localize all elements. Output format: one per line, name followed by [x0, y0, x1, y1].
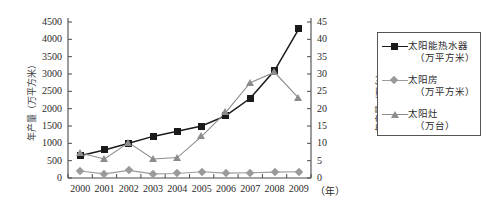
legend-series-name: 太阳能热水器 — [408, 41, 468, 51]
data-point-triangle — [124, 139, 132, 146]
data-point-square — [101, 146, 108, 153]
legend-marker-diamond-icon — [382, 75, 408, 87]
data-point-triangle — [294, 94, 302, 101]
data-point-triangle — [197, 132, 205, 139]
legend-item-1[interactable]: 太阳房（万平方米） — [382, 74, 475, 98]
chart-root: 年产量（万平方米） 年产量（万台） 4500400035003000250020… — [0, 0, 490, 215]
data-point-triangle — [100, 155, 108, 162]
data-point-triangle — [221, 108, 229, 115]
data-point-square — [174, 128, 181, 135]
legend-marker-square-icon — [382, 41, 408, 53]
data-point-square — [295, 25, 302, 32]
series-line-diamond — [80, 170, 299, 173]
legend-series-name: 太阳房 — [408, 75, 438, 85]
legend-label-0: 太阳能热水器（万平方米） — [408, 40, 475, 64]
data-point-triangle — [76, 149, 84, 156]
legend-series-unit: （万平方米） — [408, 86, 475, 98]
data-point-square — [198, 123, 205, 130]
series-line-triangle — [80, 72, 299, 159]
legend-item-2[interactable]: 太阳灶（万台） — [382, 108, 455, 132]
data-point-triangle — [270, 68, 278, 75]
data-point-square — [247, 95, 254, 102]
data-point-triangle — [149, 155, 157, 162]
data-point-square — [150, 133, 157, 140]
legend-marker-triangle-icon — [382, 109, 408, 121]
legend-series-unit: （万平方米） — [408, 52, 475, 64]
legend-series-name: 太阳灶 — [408, 109, 438, 119]
series-line-square — [80, 29, 299, 156]
legend-label-1: 太阳房（万平方米） — [408, 74, 475, 98]
legend-label-2: 太阳灶（万台） — [408, 108, 455, 132]
data-point-triangle — [246, 79, 254, 86]
legend-item-0[interactable]: 太阳能热水器（万平方米） — [382, 40, 475, 64]
legend-series-unit: （万台） — [408, 120, 455, 132]
legend: 太阳能热水器（万平方米）太阳房（万平方米）太阳灶（万台） — [377, 32, 481, 136]
data-point-triangle — [173, 154, 181, 161]
